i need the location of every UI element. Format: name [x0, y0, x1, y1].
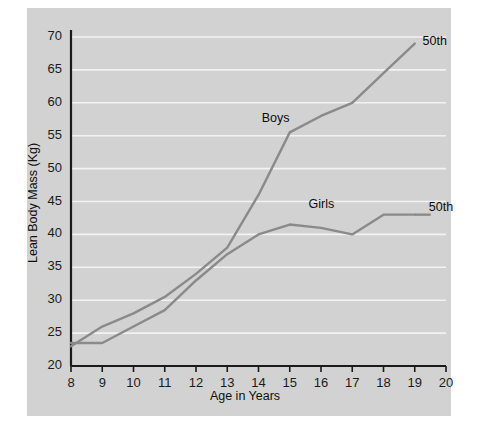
- x-tick-label: 13: [215, 375, 239, 390]
- annotation-50th: 50th: [429, 200, 453, 214]
- y-tick-label: 55: [30, 127, 62, 142]
- x-tick-label: 14: [247, 375, 271, 390]
- y-tick-label: 65: [30, 61, 62, 76]
- y-tick-label: 70: [30, 28, 62, 43]
- x-tick-label: 8: [59, 375, 83, 390]
- y-tick-label: 20: [30, 357, 62, 372]
- x-tick-label: 17: [340, 375, 364, 390]
- x-tick-label: 20: [434, 375, 458, 390]
- gridlines: [71, 37, 446, 333]
- y-axis-title: Lean Body Mass (Kg): [26, 143, 40, 263]
- x-tick-label: 15: [278, 375, 302, 390]
- x-tick-label: 16: [309, 375, 333, 390]
- figure-container: 2025303540455055606570 89101112131415161…: [0, 0, 477, 433]
- x-tick-label: 18: [372, 375, 396, 390]
- y-tick-label: 30: [30, 291, 62, 306]
- y-tick-label: 60: [30, 94, 62, 109]
- x-axis-title: Age in Years: [180, 389, 310, 403]
- annotation-girls: Girls: [309, 197, 335, 211]
- x-tick-label: 9: [90, 375, 114, 390]
- chart-plot-area: [0, 0, 477, 433]
- x-tick-label: 12: [184, 375, 208, 390]
- annotation-50th: 50th: [423, 34, 447, 48]
- x-tick-label: 10: [122, 375, 146, 390]
- y-tick-label: 25: [30, 324, 62, 339]
- x-tick-label: 19: [403, 375, 427, 390]
- x-tick-label: 11: [153, 375, 177, 390]
- annotation-boys: Boys: [262, 111, 290, 125]
